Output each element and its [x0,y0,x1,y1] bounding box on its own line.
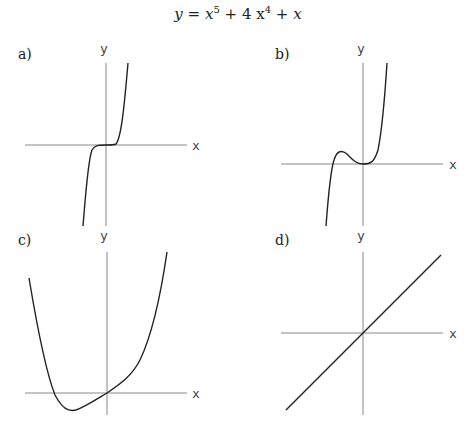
panel-label: c) [18,232,31,248]
y-axis-label: y [100,41,108,56]
x-axis-label: x [192,138,200,153]
x-axis-label: x [449,157,457,172]
x-axis-label: x [192,386,200,401]
curve [29,252,167,410]
panel-label: d) [275,232,289,248]
panel-label: a) [18,46,32,62]
y-axis-label: y [100,228,108,243]
panel-d: d) y x [275,228,457,415]
y-axis-label: y [357,228,365,243]
panel-label: b) [275,46,289,62]
curve [326,63,387,226]
panel-a: a) y x [18,41,200,226]
x-axis-label: x [449,326,457,341]
panel-b: b) y x [275,41,457,226]
panel-c: c) y x [18,228,200,415]
graphs-figure: a) y x b) y x c) y x d) y x [0,0,476,430]
y-axis-label: y [357,41,365,56]
